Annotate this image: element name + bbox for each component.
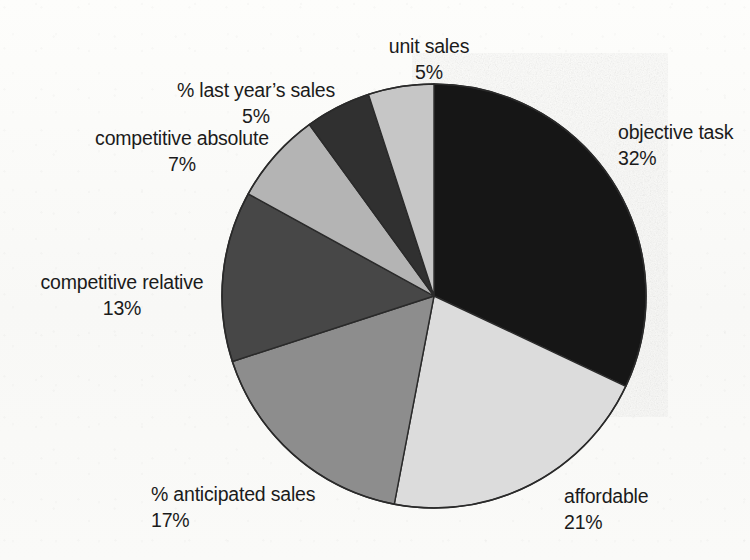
slice-label-unit-sales: unit sales 5% — [349, 34, 509, 85]
slice-label-name: competitive absolute — [77, 126, 287, 152]
slice-label-value: 17% — [151, 508, 315, 534]
slice-label-value: 13% — [24, 296, 220, 322]
slice-label-name: unit sales — [349, 34, 509, 60]
slice-label-value: 32% — [618, 146, 733, 172]
slice-label-value: 21% — [564, 510, 648, 536]
slice-label-objective-task: objective task 32% — [618, 120, 733, 171]
slice-label-name: competitive relative — [24, 270, 220, 296]
slice-label-affordable: affordable 21% — [564, 484, 648, 535]
slice-label-anticipated-sales: % anticipated sales 17% — [151, 482, 315, 533]
pie-chart-figure: objective task 32% affordable 21% % anti… — [0, 0, 750, 560]
slice-label-name: affordable — [564, 484, 648, 510]
slice-label-name: % last year’s sales — [166, 78, 346, 104]
slice-label-value: 7% — [77, 152, 287, 178]
slice-label-name: objective task — [618, 120, 733, 146]
slice-label-competitive-relative: competitive relative 13% — [24, 270, 220, 321]
slice-label-name: % anticipated sales — [151, 482, 315, 508]
slice-label-last-years-sales: % last year’s sales 5% — [166, 78, 346, 129]
slice-label-value: 5% — [166, 104, 346, 130]
slice-label-competitive-absolute: competitive absolute 7% — [77, 126, 287, 177]
slice-label-value: 5% — [349, 60, 509, 86]
